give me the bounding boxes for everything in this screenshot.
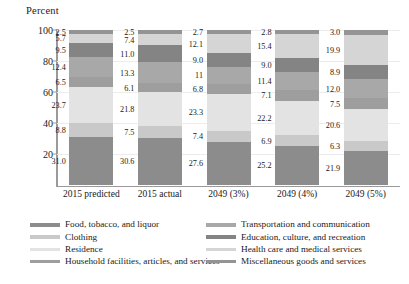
bar-segment[interactable]: 25.2 <box>275 146 319 185</box>
stacked-bar-chart: Percent 20406080100 2.55.79.512.46.523.7… <box>0 0 409 284</box>
bar-segment[interactable]: 13.3 <box>138 62 182 83</box>
bar-segment[interactable]: 8.9 <box>344 65 388 79</box>
bar-group: 2.815.49.011.47.122.26.925.2 <box>275 30 319 185</box>
legend-swatch <box>30 235 60 238</box>
bar-segment[interactable]: 19.9 <box>344 35 388 66</box>
bar-segment[interactable]: 15.4 <box>275 34 319 58</box>
bar-segment[interactable]: 12.4 <box>69 57 113 76</box>
legend-label: Transportation and communication <box>241 220 370 229</box>
bar-segment[interactable]: 9.0 <box>275 58 319 72</box>
bar-segment[interactable]: 8.8 <box>69 123 113 137</box>
bar-segment[interactable]: 20.6 <box>344 109 388 141</box>
bar-group: 2.712.19.0116.823.37.427.6 <box>207 30 251 185</box>
legend-label: Clothing <box>65 233 97 242</box>
bar-segment[interactable]: 7.1 <box>275 90 319 101</box>
stacked-bar[interactable]: 3.019.98.912.07.520.66.321.9 <box>344 30 388 185</box>
legend-item[interactable]: Food, tobacco, and liquor <box>30 220 206 229</box>
stacked-bar[interactable]: 2.712.19.0116.823.37.427.6 <box>207 30 251 185</box>
bar-segment-value: 5.7 <box>56 34 66 43</box>
bar-segment[interactable]: 6.5 <box>69 77 113 87</box>
chart-legend: Food, tobacco, and liquorTransportation … <box>30 219 405 267</box>
bar-segment-value: 12.4 <box>51 63 65 72</box>
bar-segment-value: 22.2 <box>257 113 271 122</box>
bar-segment-value: 11.4 <box>258 76 272 85</box>
x-tick-label: 2015 actual <box>138 189 182 199</box>
bar-segment[interactable]: 22.2 <box>275 101 319 135</box>
bar-segment[interactable]: 5.7 <box>69 34 113 43</box>
y-axis-title: Percent <box>26 5 59 16</box>
bar-segment[interactable]: 11.0 <box>138 45 182 62</box>
legend-item[interactable]: Transportation and communication <box>206 220 405 229</box>
bar-segment-value: 12.1 <box>189 39 203 48</box>
bar-segment-value: 7.5 <box>330 99 340 108</box>
legend-item[interactable]: Education, culture, and recreation <box>206 233 405 242</box>
legend-item[interactable]: Clothing <box>30 233 206 242</box>
legend-swatch <box>206 223 236 226</box>
x-tick-label: 2015 predicted <box>63 189 120 199</box>
bar-segment[interactable]: 12.1 <box>207 34 251 53</box>
stacked-bar[interactable]: 2.55.79.512.46.523.78.831.0 <box>69 30 113 185</box>
bar-segment-value: 7.5 <box>124 127 134 136</box>
legend-swatch <box>206 235 236 238</box>
bar-segment[interactable]: 6.1 <box>138 83 182 92</box>
bar-segment-value: 6.8 <box>193 85 203 94</box>
y-tick-mark <box>53 61 57 62</box>
bar-segment-value: 2.7 <box>193 28 203 37</box>
legend-label: Education, culture, and recreation <box>241 233 365 242</box>
bar-segment[interactable]: 9.5 <box>69 43 113 58</box>
bar-group: 2.57.411.013.36.121.87.530.6 <box>138 30 182 185</box>
legend-item[interactable]: Household facilities, articles, and serv… <box>30 257 206 266</box>
bar-segment[interactable]: 11 <box>207 67 251 84</box>
bar-segment-value: 7.4 <box>124 35 134 44</box>
bar-segment-value: 2.8 <box>261 28 271 37</box>
bar-segment[interactable]: 27.6 <box>207 142 251 185</box>
legend-swatch <box>206 248 236 251</box>
bar-segment[interactable]: 7.4 <box>138 34 182 45</box>
x-tick-label: 2049 (5%) <box>346 189 386 199</box>
bar-segment[interactable]: 7.4 <box>207 131 251 142</box>
bar-segment[interactable]: 9.0 <box>207 53 251 67</box>
bar-segment[interactable]: 21.9 <box>344 151 388 185</box>
bar-segment-value: 12.0 <box>326 84 340 93</box>
bar-segment-value: 31.0 <box>51 156 65 165</box>
legend-swatch <box>30 223 60 226</box>
bar-segment[interactable]: 6.3 <box>344 141 388 151</box>
bar-segment-value: 6.3 <box>330 142 340 151</box>
bar-segment-value: 6.9 <box>261 136 271 145</box>
stacked-bar[interactable]: 2.815.49.011.47.122.26.925.2 <box>275 30 319 185</box>
bar-segment[interactable]: 23.7 <box>69 87 113 124</box>
bar-segment-value: 13.3 <box>120 68 134 77</box>
bar-segment-value: 11 <box>195 71 203 80</box>
bar-segment-value: 30.6 <box>120 157 134 166</box>
bar-segment[interactable]: 7.5 <box>138 126 182 138</box>
bar-group: 3.019.98.912.07.520.66.321.9 <box>344 30 388 185</box>
bar-segment-value: 20.6 <box>326 121 340 130</box>
bar-segment-value: 8.9 <box>330 68 340 77</box>
bar-segment-value: 11.0 <box>120 49 134 58</box>
bar-group: 2.55.79.512.46.523.78.831.0 <box>69 30 113 185</box>
bar-segment[interactable]: 6.9 <box>275 135 319 146</box>
bar-segment[interactable]: 23.3 <box>207 94 251 130</box>
bar-segment-value: 27.6 <box>189 159 203 168</box>
bar-segment-value: 19.9 <box>326 46 340 55</box>
legend-item[interactable]: Health care and medical services <box>206 245 405 254</box>
legend-swatch <box>30 260 60 263</box>
bar-segment[interactable]: 30.6 <box>138 138 182 185</box>
bar-segment[interactable]: 7.5 <box>344 98 388 110</box>
bar-segment[interactable]: 31.0 <box>69 137 113 185</box>
stacked-bar[interactable]: 2.57.411.013.36.121.87.530.6 <box>138 30 182 185</box>
x-tick-label: 2049 (4%) <box>277 189 317 199</box>
plot-area: 20406080100 2.55.79.512.46.523.78.831.02… <box>57 30 400 185</box>
legend-item[interactable]: Miscellaneous goods and services <box>206 257 405 266</box>
bar-segment-value: 25.2 <box>257 161 271 170</box>
bar-segment[interactable]: 11.4 <box>275 72 319 90</box>
bar-segment-value: 21.8 <box>120 105 134 114</box>
bar-segment-value: 3.0 <box>330 28 340 37</box>
bar-segment[interactable]: 6.8 <box>207 84 251 95</box>
y-tick-label: 100 <box>38 25 53 36</box>
y-tick-mark <box>53 123 57 124</box>
bar-segment[interactable]: 12.0 <box>344 79 388 98</box>
bar-segment[interactable]: 21.8 <box>138 92 182 126</box>
legend-item[interactable]: Residence <box>30 245 206 254</box>
bar-segment-value: 23.3 <box>189 108 203 117</box>
